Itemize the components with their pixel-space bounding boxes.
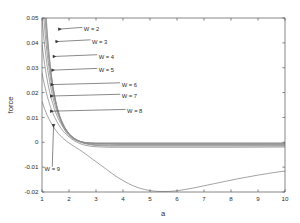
x-tick-label: 7 [202,195,206,202]
annotation-label: W = 5 [99,67,114,73]
force-vs-a-line-chart: 12345678910-0.02-0.0100.010.020.030.040.… [0,0,300,223]
annotation-label: W = 4 [99,54,115,60]
x-tick-label: 9 [256,195,260,202]
x-tick-label: 8 [229,195,233,202]
x-tick-label: 1 [40,195,44,202]
x-tick-label: 4 [121,195,125,202]
y-tick-label: 0.02 [26,89,39,96]
x-tick-label: 5 [148,195,152,202]
y-tick-label: 0.05 [26,14,39,21]
annotation-label: W = 8 [127,108,142,114]
x-tick-label: 6 [175,195,179,202]
x-tick-label: 2 [67,195,71,202]
annotation-label: W = 7 [122,93,137,99]
annotation-label: W = 3 [92,39,107,45]
figure-container: 12345678910-0.02-0.0100.010.020.030.040.… [0,0,300,223]
y-tick-label: 0.01 [26,114,39,121]
y-tick-label: -0.01 [24,163,39,170]
annotation-label: W = 6 [122,82,137,88]
y-tick-label: -0.02 [24,188,39,195]
annotation-label: W = 2 [84,26,99,32]
y-axis-title: force [6,97,15,114]
y-tick-label: 0.04 [26,39,39,46]
x-tick-label: 3 [94,195,98,202]
y-tick-label: 0 [35,138,39,145]
x-tick-label: 10 [282,195,289,202]
y-tick-label: 0.03 [26,64,39,71]
annotation-label: W = 9 [45,166,60,172]
